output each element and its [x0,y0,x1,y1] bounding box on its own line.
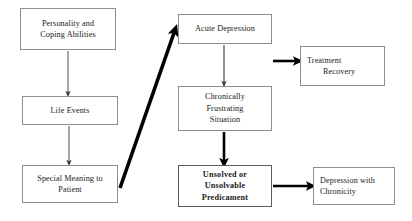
node-label-line: Depression with [320,175,375,187]
node-life-events: Life Events [22,96,118,125]
node-label-line: Treatment [307,55,341,67]
node-label-line: Unsolved or [203,169,247,181]
node-depression-with-chronicity: Depression with Chronicity [313,167,395,205]
node-acute-depression: Acute Depression [178,14,272,44]
node-label-line: Chronicity [320,186,356,198]
node-personality-and-coping-abilities: Personality and Coping Abilities [20,8,116,50]
node-label-line: Recovery [307,66,355,78]
node-label-line: Unsolvable [205,180,246,192]
node-label-line: Life Events [50,105,89,117]
node-label-line: Coping Abilities [40,29,96,41]
edge-special-to-acute [120,30,175,188]
node-chronically-frustrating-situation: Chronically Frustrating Situation [178,86,272,131]
node-label-line: Acute Depression [195,23,255,35]
node-label-line: Chronically [205,91,245,103]
flowchart-canvas: Personality and Coping Abilities Life Ev… [0,0,412,221]
node-unsolved-or-unsolvable-predicament: Unsolved or Unsolvable Predicament [178,165,272,207]
node-label-line: Personality and [42,18,94,30]
node-label-line: Predicament [202,192,249,204]
node-special-meaning-to-patient: Special Meaning to Patient [22,165,118,203]
node-label-line: Frustrating [206,103,243,115]
node-label-line: Patient [58,184,81,196]
node-treatment-recovery: Treatment Recovery [300,46,385,86]
node-label-line: Situation [210,114,240,126]
node-label-line: Special Meaning to [37,173,102,185]
